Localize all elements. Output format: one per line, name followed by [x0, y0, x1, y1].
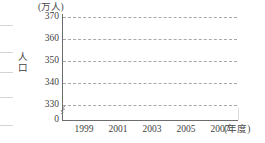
- gridline-360: [63, 39, 237, 40]
- x-axis-line: [62, 120, 238, 121]
- margin-artifact-mark: [0, 72, 13, 73]
- population-year-grid-chart: (万人) 人 口 370 360 350 340 330 0 1999 2001…: [0, 0, 265, 143]
- x-tick-label: 2003: [143, 124, 162, 135]
- axis-break-icon: [55, 105, 71, 119]
- y-tick-label: 340: [26, 78, 59, 88]
- margin-artifact-mark: [0, 97, 13, 98]
- gridline-350: [63, 61, 237, 62]
- margin-artifact-mark: [0, 25, 13, 26]
- plot-right-edge-mark: [238, 108, 239, 120]
- y-tick-label: 360: [26, 34, 59, 44]
- y-tick-label: 370: [26, 12, 59, 22]
- x-tick-label: 2001: [109, 124, 128, 135]
- y-tick-label: 350: [26, 56, 59, 66]
- gridline-370: [63, 17, 237, 18]
- x-tick-label: 2005: [177, 124, 196, 135]
- y-tick-label-group: 370 360 350 340 330 0: [26, 0, 59, 143]
- gridline-330: [63, 105, 237, 106]
- margin-artifact-mark: [0, 52, 13, 53]
- x-tick-label: 1999: [75, 124, 94, 135]
- gridline-340: [63, 83, 237, 84]
- x-tick-label-group: 1999 2001 2003 2005 2007 (年度): [0, 124, 265, 140]
- x-axis-unit-label: (年度): [224, 124, 250, 135]
